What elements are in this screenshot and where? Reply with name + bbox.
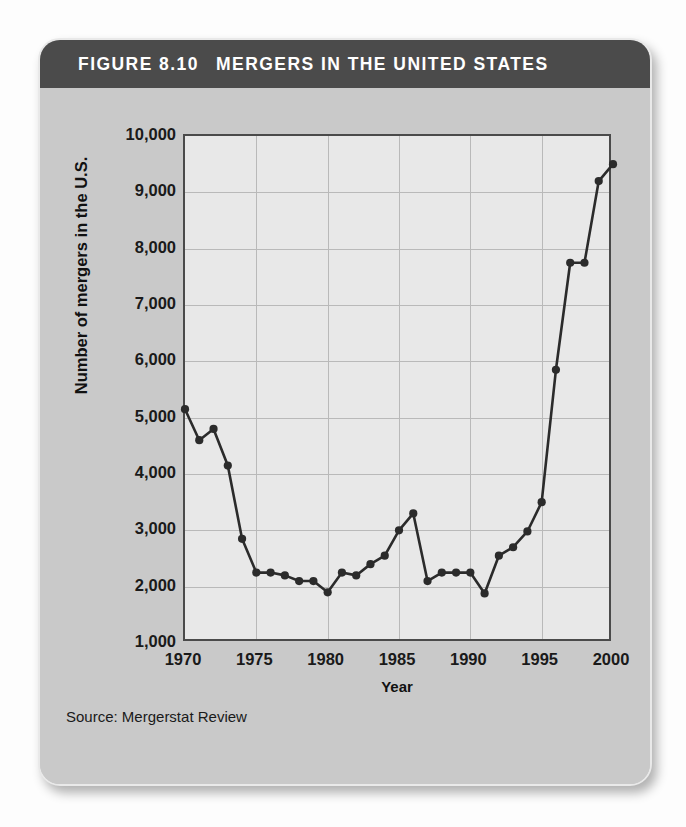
data-point-marker: 2000: 9500 <box>609 160 617 168</box>
data-point-marker: 1990: 2250 <box>466 568 474 576</box>
y-axis-tick-labels: 1,0002,0003,0004,0005,0006,0007,0008,000… <box>70 134 176 641</box>
x-axis-tick-label: 1985 <box>379 650 416 669</box>
figure-card: FIGURE 8.10MERGERS IN THE UNITED STATES … <box>38 38 652 786</box>
data-point-marker: 1972: 4800 <box>209 425 217 433</box>
y-axis-tick-label: 2,000 <box>76 575 176 594</box>
figure-screenshot: FIGURE 8.10MERGERS IN THE UNITED STATES … <box>0 0 686 827</box>
y-axis-tick-label: 6,000 <box>76 350 176 369</box>
data-point-marker: 1977: 2200 <box>281 571 289 579</box>
data-point-marker: 1991: 1880 <box>481 589 489 597</box>
data-point-marker: 1987: 2100 <box>423 577 431 585</box>
data-point-marker: 1983: 2400 <box>366 560 374 568</box>
data-point-marker: 1994: 2980 <box>523 527 531 535</box>
data-point-marker: 1995: 3500 <box>538 498 546 506</box>
data-point-marker: 1982: 2200 <box>352 571 360 579</box>
y-axis-tick-label: 10,000 <box>76 125 176 144</box>
chart-body: Number of mergers in the U.S. 1,0002,000… <box>40 88 650 786</box>
x-axis-tick-label: 1990 <box>450 650 487 669</box>
y-axis-tick-label: 1,000 <box>76 632 176 651</box>
plot-area: 1970: 51501971: 46001972: 48001973: 4150… <box>183 134 611 641</box>
data-point-marker: 1998: 7750 <box>580 259 588 267</box>
y-axis-tick-label: 3,000 <box>76 519 176 538</box>
data-point-marker: 1989: 2250 <box>452 568 460 576</box>
data-point-marker: 1980: 1900 <box>324 588 332 596</box>
y-axis-tick-label: 7,000 <box>76 294 176 313</box>
merger-line-series: 1970: 51501971: 46001972: 48001973: 4150… <box>185 136 613 643</box>
data-point-marker: 1978: 2100 <box>295 577 303 585</box>
data-point-marker: 1971: 4600 <box>195 436 203 444</box>
data-point-marker: 1973: 4150 <box>224 461 232 469</box>
x-axis-title: Year <box>183 678 611 695</box>
y-axis-tick-label: 4,000 <box>76 463 176 482</box>
data-point-marker: 1986: 3300 <box>409 509 417 517</box>
x-axis-tick-label: 1995 <box>521 650 558 669</box>
y-axis-tick-label: 5,000 <box>76 406 176 425</box>
x-axis-tick-label: 1980 <box>307 650 344 669</box>
x-axis-tick-label: 2000 <box>593 650 630 669</box>
y-axis-tick-label: 8,000 <box>76 237 176 256</box>
x-axis-tick-labels: 1970197519801985199019952000 <box>183 650 611 676</box>
source-note: Source: Mergerstat Review <box>66 708 247 725</box>
x-axis-tick-label: 1975 <box>236 650 273 669</box>
data-point-marker: 1970: 5150 <box>181 405 189 413</box>
y-axis-tick-label: 9,000 <box>76 181 176 200</box>
data-point-marker: 1993: 2700 <box>509 543 517 551</box>
data-point-marker: 1976: 2250 <box>267 568 275 576</box>
data-point-marker: 1985: 3000 <box>395 526 403 534</box>
figure-header-bar: FIGURE 8.10MERGERS IN THE UNITED STATES <box>40 40 650 88</box>
data-point-marker: 1975: 2250 <box>252 568 260 576</box>
data-point-marker: 1988: 2250 <box>438 568 446 576</box>
data-point-marker: 1979: 2100 <box>309 577 317 585</box>
data-point-marker: 1992: 2550 <box>495 552 503 560</box>
data-point-marker: 1974: 2850 <box>238 535 246 543</box>
figure-title-text: MERGERS IN THE UNITED STATES <box>216 54 549 74</box>
figure-number-label: FIGURE 8.10 <box>78 54 199 74</box>
data-point-marker: 1999: 9200 <box>595 177 603 185</box>
data-point-marker: 1984: 2550 <box>381 552 389 560</box>
figure-header-title: FIGURE 8.10MERGERS IN THE UNITED STATES <box>78 54 549 75</box>
data-point-marker: 1981: 2250 <box>338 568 346 576</box>
data-point-marker: 1997: 7750 <box>566 259 574 267</box>
data-point-marker: 1996: 5850 <box>552 366 560 374</box>
x-axis-tick-label: 1970 <box>165 650 202 669</box>
